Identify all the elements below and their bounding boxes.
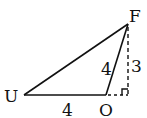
- vertex-label-U: U: [4, 86, 18, 106]
- vertex-label-O: O: [99, 100, 113, 118]
- right-angle-marker: [122, 89, 128, 95]
- vertex-label-F: F: [129, 6, 141, 26]
- length-label-OF: 4: [101, 59, 112, 79]
- length-label-height: 3: [131, 56, 142, 76]
- length-label-UO: 4: [62, 100, 73, 118]
- segment-UF: [24, 24, 128, 95]
- triangle-diagram: U O F 4 4 3: [0, 0, 147, 118]
